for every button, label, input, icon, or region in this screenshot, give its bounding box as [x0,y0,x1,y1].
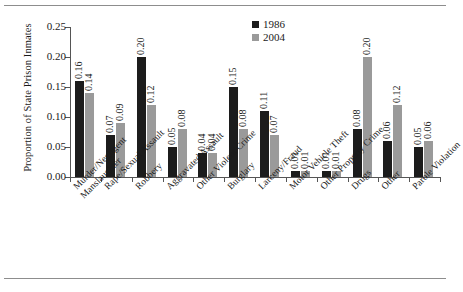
x-axis-tick [348,177,349,182]
legend-item-2004[interactable]: 2004 [252,31,285,44]
bar-group: 0.050.08 [163,27,194,177]
y-axis-tick-label: 0.20 [26,51,66,62]
y-axis-tick-label: 0.00 [26,171,66,182]
bar-group: 0.050.06 [409,27,440,177]
x-axis-tick [378,177,379,182]
bar-value-label: 0.06 [423,122,433,140]
x-axis-tick [255,177,256,182]
bar-value-label: 0.20 [362,38,372,56]
bar-group: 0.060.12 [378,27,409,177]
x-axis-tick [132,177,133,182]
bar-value-label: 0.12 [146,86,156,104]
legend: 1986 2004 [252,18,285,44]
x-axis-tick [317,177,318,182]
plot-area: 0.000.050.100.150.200.25 0.160.140.070.0… [70,27,440,177]
x-axis-tick [409,177,410,182]
x-axis-tick [440,177,441,182]
bar-value-label: 0.12 [392,86,402,104]
y-axis-tick-label: 0.10 [26,111,66,122]
y-axis-tick-label: 0.05 [26,141,66,152]
x-axis-tick [224,177,225,182]
bar-2004[interactable] [363,57,372,177]
bar-value-label: 0.05 [167,128,177,146]
bar-1986[interactable] [229,87,238,177]
top-divider [4,5,446,6]
bar-value-label: 0.08 [238,110,248,128]
bottom-divider [4,278,446,279]
x-axis-tick [70,177,71,182]
bar-value-label: 0.07 [269,116,279,134]
y-axis-tick-label: 0.25 [26,21,66,32]
x-axis-tick [286,177,287,182]
legend-label-2004: 2004 [263,31,285,44]
bar-value-label: 0.09 [115,104,125,122]
bar-value-label: 0.08 [177,110,187,128]
y-axis-title: Proportion of State Prison Inmates [22,8,33,188]
bar-group: 0.160.14 [70,27,101,177]
bar-2004[interactable] [393,105,402,177]
bar-value-label: 0.20 [136,38,146,56]
bar-group: 0.110.07 [255,27,286,177]
legend-swatch-icon-1986 [252,21,259,28]
bar-value-label: 0.15 [228,68,238,86]
legend-label-1986: 1986 [263,18,285,31]
bar-value-label: 0.11 [259,92,269,109]
bar-value-label: 0.08 [352,110,362,128]
y-axis-tick-label: 0.15 [26,81,66,92]
bar-1986[interactable] [75,81,84,177]
bar-value-label: 0.14 [84,74,94,92]
x-axis-tick [193,177,194,182]
legend-item-1986[interactable]: 1986 [252,18,285,31]
legend-swatch-icon-2004 [252,34,259,41]
x-axis-tick [163,177,164,182]
